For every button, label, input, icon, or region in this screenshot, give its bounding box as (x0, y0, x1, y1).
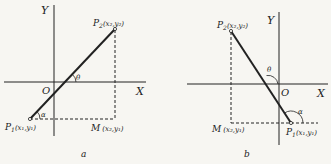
p2-label: P2(x₂,y₂) (216, 20, 248, 31)
p1-label: P1(x₁,y₁) (285, 127, 317, 138)
x-axis-label: X (135, 85, 145, 98)
alpha-label: α (41, 111, 46, 119)
origin-label: O (42, 85, 50, 96)
m-label: M(x₂,y₁) (90, 123, 124, 133)
point-p1 (289, 121, 292, 124)
p1-label: P1(x₁,y₁) (4, 122, 36, 133)
segment-p1-p2 (30, 29, 115, 119)
y-axis-label: Y (267, 14, 276, 27)
y-axis-label: Y (41, 4, 50, 17)
segment-p1-p2 (231, 31, 291, 123)
diagram-canvas: Y X O θ α P2(x₂,y₂) P1(x₁,y₁) M(x₂,y₁) a… (0, 0, 331, 164)
theta-label: θ (76, 74, 81, 82)
caption-b: b (244, 149, 250, 159)
caption-a: a (81, 149, 86, 159)
m-label: M(x₂,y₁) (211, 124, 245, 134)
x-axis-label: X (316, 87, 326, 100)
point-p1 (28, 117, 31, 120)
alpha-label: α (298, 108, 303, 116)
theta-arc (267, 75, 279, 84)
alpha-arc (37, 112, 40, 120)
figure-b: Y X O θ α P2(x₂,y₂) M(x₂,y₁) P1(x₁,y₁) b (187, 12, 328, 159)
p2-label: P2(x₂,y₂) (92, 18, 124, 29)
theta-label: θ (267, 66, 272, 74)
figure-a: Y X O θ α P2(x₂,y₂) P1(x₁,y₁) M(x₂,y₁) a (4, 4, 146, 159)
origin-label: O (281, 87, 289, 98)
